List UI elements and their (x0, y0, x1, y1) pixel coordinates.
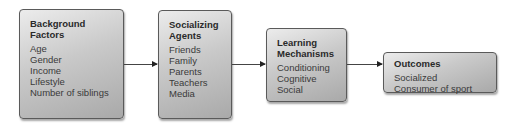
box-background-factors: Background Factors Age Gender Income Lif… (19, 9, 124, 119)
box-title: Background Factors (30, 18, 117, 40)
title-line: Outcomes (394, 58, 490, 69)
box-title: Socializing Agents (169, 19, 225, 41)
title-line: Background (30, 18, 117, 29)
arrow-learning-to-outcomes (347, 64, 382, 65)
box-socializing-agents: Socializing Agents Friends Family Parent… (158, 10, 232, 119)
list-item: Teachers (169, 77, 225, 88)
title-line: Factors (30, 29, 117, 40)
arrow-socializing-to-learning (232, 64, 265, 65)
box-title: Learning Mechanisms (277, 37, 340, 59)
box-outcomes: Outcomes Socialized Consumer of sport (383, 52, 497, 93)
list-item: Consumer of sport (394, 83, 490, 94)
list-item: Cognitive (277, 73, 340, 84)
list-item: Age (30, 43, 117, 54)
title-line: Agents (169, 30, 225, 41)
box-learning-mechanisms: Learning Mechanisms Conditioning Cogniti… (266, 28, 347, 102)
list-item: Social (277, 84, 340, 95)
list-item: Media (169, 88, 225, 99)
list-item: Friends (169, 44, 225, 55)
list-item: Gender (30, 54, 117, 65)
list-item: Income (30, 65, 117, 76)
list-item: Family (169, 55, 225, 66)
box-title: Outcomes (394, 58, 490, 69)
title-line: Socializing (169, 19, 225, 30)
list-item: Number of siblings (30, 87, 117, 98)
title-line: Learning (277, 37, 340, 48)
list-item: Conditioning (277, 62, 340, 73)
list-item: Socialized (394, 72, 490, 83)
arrow-background-to-socializing (124, 64, 157, 65)
list-item: Lifestyle (30, 76, 117, 87)
list-item: Parents (169, 66, 225, 77)
title-line: Mechanisms (277, 48, 340, 59)
